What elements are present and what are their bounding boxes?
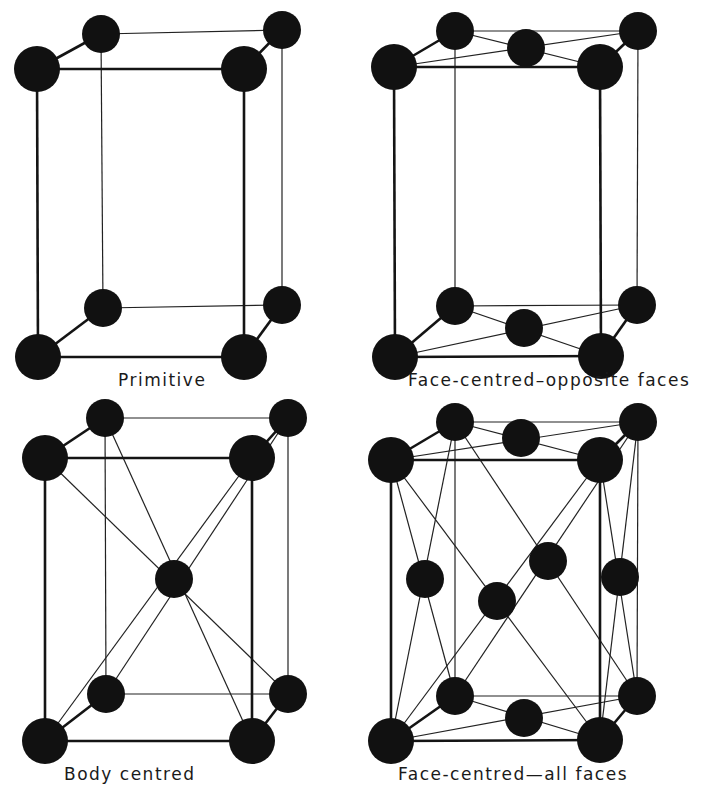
label-face-centred-opposite: Face-centred–opposite faces <box>408 370 690 390</box>
back-edge <box>637 422 638 696</box>
atom-back <box>436 403 474 441</box>
lattice-diagram <box>0 0 710 808</box>
back-edge <box>105 418 106 694</box>
atom-back <box>87 675 125 713</box>
atom-back <box>263 286 301 324</box>
atom-front <box>368 718 414 764</box>
atom-centre <box>507 29 545 67</box>
back-edge <box>103 305 282 308</box>
atom-front <box>22 435 68 481</box>
atom-back <box>436 12 474 50</box>
atom-back <box>263 11 301 49</box>
atom-front <box>229 435 275 481</box>
atom-back <box>619 403 657 441</box>
atom-front <box>371 44 417 90</box>
atom-centre <box>505 699 543 737</box>
atom-back <box>618 286 656 324</box>
atom-front <box>15 334 61 380</box>
atom-front <box>22 718 68 764</box>
atom-centre <box>406 560 444 598</box>
bond-line <box>45 458 252 741</box>
front-edge <box>37 69 38 357</box>
front-edge <box>394 67 395 357</box>
atom-centre <box>505 309 543 347</box>
atom-centre <box>155 560 193 598</box>
atom-front <box>577 44 623 90</box>
label-primitive: Primitive <box>118 370 206 390</box>
atom-centre <box>502 419 540 457</box>
atom-back <box>86 399 124 437</box>
atom-front <box>577 717 623 763</box>
atom-centre <box>601 558 639 596</box>
atom-front <box>221 334 267 380</box>
panel-face-centred-all <box>368 403 657 764</box>
label-face-centred-all: Face-centred—all faces <box>398 764 628 784</box>
atom-front <box>229 718 275 764</box>
front-edge <box>600 67 601 356</box>
atom-centre <box>478 582 516 620</box>
back-edge <box>101 34 103 308</box>
panel-face-centred-opposite <box>371 12 657 380</box>
atom-front <box>14 46 60 92</box>
atom-back <box>82 15 120 53</box>
atom-back <box>436 677 474 715</box>
front-edge <box>391 740 600 741</box>
atom-back <box>619 12 657 50</box>
panel-primitive <box>14 11 301 380</box>
atom-back <box>618 677 656 715</box>
panel-body-centred <box>22 399 307 764</box>
atom-back <box>436 287 474 325</box>
back-edge <box>637 31 638 305</box>
back-edge <box>455 305 637 306</box>
atom-back <box>269 675 307 713</box>
atom-front <box>577 437 623 483</box>
back-edge <box>101 30 282 34</box>
front-edge <box>395 356 601 357</box>
atom-back <box>84 289 122 327</box>
label-body-centred: Body centred <box>64 764 195 784</box>
atom-back <box>269 399 307 437</box>
atom-front <box>221 46 267 92</box>
atom-centre <box>529 542 567 580</box>
atom-front <box>368 437 414 483</box>
